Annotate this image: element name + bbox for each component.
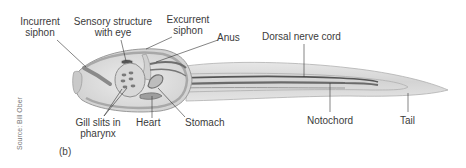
- source-credit: Source: Bill Ober: [16, 97, 23, 150]
- label-incurrent-siphon: Incurrent siphon: [10, 16, 70, 38]
- label-line: Sensory structure: [70, 16, 156, 27]
- label-line: siphon: [160, 25, 216, 36]
- label-dorsal-nerve-cord: Dorsal nerve cord: [262, 31, 341, 42]
- label-line: Excurrent: [160, 14, 216, 25]
- label-stomach: Stomach: [185, 117, 224, 128]
- label-line: siphon: [10, 27, 70, 38]
- label-gill-slits: Gill slits in pharynx: [70, 117, 126, 139]
- label-sensory-structure: Sensory structure with eye: [70, 16, 156, 38]
- head-trunk-shape: [73, 49, 192, 112]
- label-notochord: Notochord: [307, 115, 353, 126]
- label-anus: Anus: [217, 32, 240, 43]
- label-excurrent-siphon: Excurrent siphon: [160, 14, 216, 36]
- label-line: Incurrent: [10, 16, 70, 27]
- panel-label: (b): [59, 146, 71, 157]
- label-line: with eye: [70, 27, 156, 38]
- label-line: pharynx: [70, 128, 126, 139]
- label-heart: Heart: [136, 117, 160, 128]
- label-tail: Tail: [400, 115, 415, 126]
- label-line: Gill slits in: [70, 117, 126, 128]
- tunicate-larva-figure: Incurrent siphon Sensory structure with …: [0, 0, 466, 168]
- tail-shape: [170, 62, 448, 101]
